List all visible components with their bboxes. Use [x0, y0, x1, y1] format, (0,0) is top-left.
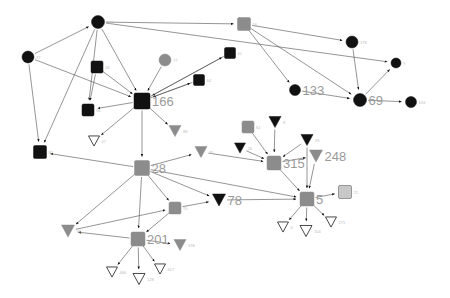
node-label: 133 [303, 83, 325, 98]
node-label: 77 [173, 58, 178, 63]
graph-edge [78, 232, 129, 238]
graph-edge [146, 213, 169, 232]
graph-node[interactable] [135, 161, 150, 176]
graph-node[interactable] [326, 217, 337, 227]
graph-edge [50, 154, 133, 167]
graph-node[interactable] [346, 36, 358, 48]
graph-edge [249, 30, 289, 82]
graph-edge [35, 60, 131, 97]
graph-edge [103, 72, 132, 94]
graph-node[interactable] [159, 54, 171, 66]
node-label: 37 [36, 55, 41, 60]
graph-node[interactable] [34, 146, 47, 159]
node-label: 417 [168, 267, 175, 272]
graph-node[interactable] [155, 264, 166, 274]
graph-node[interactable] [391, 58, 401, 68]
graph-node[interactable] [194, 75, 205, 86]
graph-node[interactable] [354, 94, 367, 107]
node-label: 61 [256, 125, 261, 130]
graph-node[interactable] [82, 104, 94, 116]
node-label: 466 [120, 270, 127, 275]
graph-node[interactable] [134, 93, 150, 109]
node-label: 138 [107, 20, 114, 25]
graph-node[interactable] [310, 150, 323, 162]
network-graph: 1383756178913369103187741641669482478828… [0, 0, 450, 298]
graph-edge [76, 174, 135, 224]
graph-node[interactable] [131, 232, 145, 246]
node-label: 35 [209, 150, 214, 155]
graph-edge [283, 144, 301, 156]
graph-node[interactable] [22, 51, 34, 63]
graph-node[interactable] [339, 186, 352, 199]
graph-edge [98, 103, 133, 109]
graph-edge [138, 248, 139, 270]
node-label: 8 [283, 120, 286, 125]
graph-node[interactable] [300, 192, 314, 206]
graph-node[interactable] [213, 194, 226, 206]
graph-edge [139, 177, 142, 228]
graph-node[interactable] [174, 239, 186, 250]
node-label: 28 [152, 161, 166, 176]
graph-edge [149, 107, 168, 124]
graph-edge [102, 29, 136, 91]
graph-edge [366, 69, 390, 94]
graph-node[interactable] [278, 222, 289, 232]
graph-node[interactable] [238, 18, 251, 31]
graph-edge [148, 175, 169, 200]
graph-edge [252, 133, 267, 154]
graph-node[interactable] [242, 121, 254, 133]
graph-node[interactable] [300, 225, 312, 236]
graph-edge [143, 246, 154, 261]
node-label: 18 [105, 65, 110, 70]
node-label: 26 [248, 146, 253, 151]
graph-edge [246, 151, 264, 159]
graph-node[interactable] [225, 48, 236, 59]
graph-edge [101, 107, 134, 135]
node-label: 94 [96, 108, 101, 113]
graph-node[interactable] [169, 202, 181, 214]
graph-edge [309, 164, 314, 188]
graph-edge [353, 49, 359, 89]
graph-node[interactable] [195, 146, 207, 157]
graph-node[interactable] [169, 125, 181, 136]
node-label: 88 [183, 129, 188, 134]
graph-node[interactable] [235, 143, 246, 153]
graph-node[interactable] [91, 61, 103, 73]
graph-node[interactable] [62, 225, 75, 237]
graph-node[interactable] [267, 156, 281, 170]
node-label: 82 [49, 150, 54, 155]
node-label: 103 [419, 100, 426, 105]
node-label: 198 [188, 243, 195, 248]
graph-node[interactable] [290, 85, 301, 96]
graph-edge [289, 205, 301, 219]
graph-edge [151, 170, 296, 197]
graph-edge [106, 22, 234, 24]
node-label: 78 [228, 193, 242, 208]
node-label: 5 [316, 192, 323, 207]
node-label: 70 [183, 206, 188, 211]
graph-edge [251, 28, 352, 94]
graph-edge [44, 29, 94, 142]
graph-node[interactable] [89, 136, 100, 146]
graph-node[interactable] [107, 267, 118, 277]
graph-edge [118, 246, 133, 265]
graph-edge [148, 67, 161, 91]
node-label: 91 [77, 229, 82, 234]
graph-node[interactable] [406, 97, 417, 108]
node-label: 33 [315, 138, 320, 143]
node-label: 271 [339, 220, 346, 225]
graph-node[interactable] [301, 134, 313, 145]
graph-node[interactable] [133, 273, 145, 284]
node-label: 104 [314, 229, 321, 234]
node-label: 201 [147, 232, 169, 247]
graph-node[interactable] [269, 116, 281, 127]
graph-edge [35, 27, 89, 54]
edge-layer [29, 22, 402, 269]
node-label: 128 [147, 277, 154, 282]
node-label: 47 [102, 139, 107, 144]
node-label: 248 [325, 149, 347, 164]
graph-node[interactable] [92, 16, 105, 29]
node-label: 166 [152, 94, 174, 109]
node-label: 9 [403, 61, 406, 66]
node-label: 64 [207, 78, 212, 83]
